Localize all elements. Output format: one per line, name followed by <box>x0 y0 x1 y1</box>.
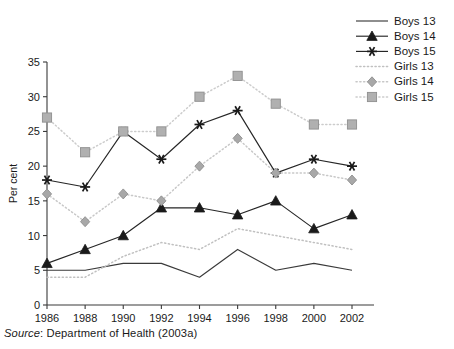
legend: Boys 13Boys 14Boys 15Girls 13Girls 14Gir… <box>356 15 436 103</box>
series-line <box>47 229 352 278</box>
marker-square <box>271 99 280 108</box>
y-tick-label: 35 <box>28 56 40 68</box>
legend-label: Boys 15 <box>394 45 436 57</box>
marker-diamond <box>42 189 51 199</box>
marker-asterisk <box>233 106 243 115</box>
marker-square <box>42 113 51 122</box>
y-tick-label: 5 <box>34 264 40 276</box>
y-tick-label: 20 <box>28 160 40 172</box>
marker-square <box>309 120 318 129</box>
marker-triangle <box>309 223 319 232</box>
x-tick-label: 1992 <box>149 312 173 324</box>
x-tick-label: 1988 <box>73 312 97 324</box>
marker-square <box>233 71 242 80</box>
series-girls-13 <box>47 229 352 278</box>
legend-label: Boys 13 <box>394 15 436 27</box>
x-tick-label: 2002 <box>340 312 364 324</box>
x-tick-label: 1986 <box>35 312 59 324</box>
legend-item-girls-15[interactable]: Girls 15 <box>356 91 434 103</box>
y-tick-label: 30 <box>28 91 40 103</box>
marker-asterisk <box>309 155 319 164</box>
marker-square <box>81 148 90 157</box>
marker-diamond <box>119 189 128 199</box>
series-girls-15 <box>42 71 356 157</box>
source-text: Department of Health (2003a) <box>46 327 197 339</box>
marker-triangle <box>271 196 281 205</box>
marker-asterisk <box>80 183 90 192</box>
marker-diamond <box>367 77 376 87</box>
x-tick-label: 1990 <box>111 312 135 324</box>
series-line <box>47 76 352 152</box>
marker-square <box>195 92 204 101</box>
legend-label: Girls 15 <box>394 91 434 103</box>
figure-container: 0510152025303519861988199019921994199619… <box>0 0 454 349</box>
legend-item-boys-15[interactable]: Boys 15 <box>356 45 436 57</box>
line-chart: 0510152025303519861988199019921994199619… <box>0 0 454 328</box>
series-line <box>47 111 352 187</box>
x-tick-label: 1994 <box>187 312 211 324</box>
marker-triangle <box>118 230 128 239</box>
marker-square <box>347 120 356 129</box>
y-tick-label: 25 <box>28 125 40 137</box>
marker-asterisk <box>347 162 357 171</box>
series-boys-14 <box>42 196 357 268</box>
y-tick-label: 0 <box>34 299 40 311</box>
marker-triangle <box>347 210 357 219</box>
y-tick-label: 10 <box>28 230 40 242</box>
marker-diamond <box>309 168 318 178</box>
axes: 0510152025303519861988199019921994199619… <box>7 56 374 324</box>
legend-label: Girls 13 <box>394 60 434 72</box>
marker-square <box>367 92 376 101</box>
marker-diamond <box>81 217 90 227</box>
x-tick-label: 1996 <box>225 312 249 324</box>
source-label: Source <box>4 327 40 339</box>
y-tick-label: 15 <box>28 195 40 207</box>
marker-asterisk <box>367 47 377 56</box>
marker-square <box>157 127 166 136</box>
x-tick-label: 1998 <box>264 312 288 324</box>
legend-item-girls-13[interactable]: Girls 13 <box>356 60 434 72</box>
legend-item-boys-13[interactable]: Boys 13 <box>356 15 436 27</box>
x-tick-label: 2000 <box>302 312 326 324</box>
source-note: Source: Department of Health (2003a) <box>4 327 197 339</box>
marker-triangle <box>80 244 90 253</box>
legend-label: Girls 14 <box>394 75 434 87</box>
marker-triangle <box>42 258 52 267</box>
legend-item-girls-14[interactable]: Girls 14 <box>356 75 434 87</box>
marker-square <box>119 127 128 136</box>
y-axis-title: Per cent <box>7 164 19 203</box>
legend-item-boys-14[interactable]: Boys 14 <box>356 30 436 42</box>
marker-diamond <box>347 175 356 185</box>
legend-label: Boys 14 <box>394 30 436 42</box>
